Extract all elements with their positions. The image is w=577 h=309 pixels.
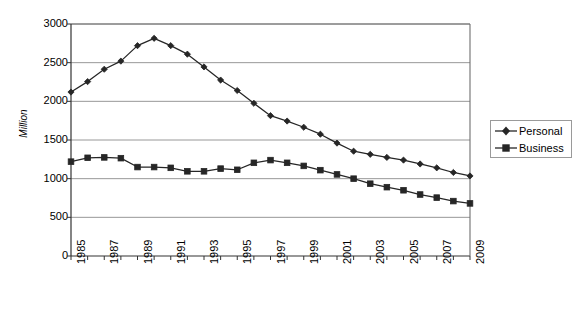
x-axis-tick-label: 2007 [442, 240, 453, 264]
x-axis-tick-label: 1985 [76, 240, 87, 264]
legend-marker-square-icon [494, 140, 518, 156]
line-chart: Million 050010001500200025003000 1985198… [0, 0, 577, 309]
legend-item-business[interactable]: Business [493, 140, 571, 157]
x-axis-tick-label: 1991 [176, 240, 187, 264]
chart-legend: Personal Business [490, 120, 572, 158]
x-axis-tick-label: 2003 [375, 240, 386, 264]
x-axis-tick-label: 1999 [309, 240, 320, 264]
x-axis-tick-label: 1989 [143, 240, 154, 264]
x-axis-tick-label: 1987 [109, 240, 120, 264]
legend-item-personal[interactable]: Personal [493, 123, 571, 140]
legend-label-business: Business [519, 142, 564, 154]
x-axis-tick-label: 2005 [409, 240, 420, 264]
x-axis-tick-label: 2001 [342, 240, 353, 264]
x-axis-tick-label: 1997 [276, 240, 287, 264]
x-axis-tick-label: 2009 [475, 240, 486, 264]
x-axis-tick-label: 1995 [242, 240, 253, 264]
legend-marker-diamond-icon [494, 123, 518, 139]
x-axis-tick-label: 1993 [209, 240, 220, 264]
legend-label-personal: Personal [519, 125, 562, 137]
